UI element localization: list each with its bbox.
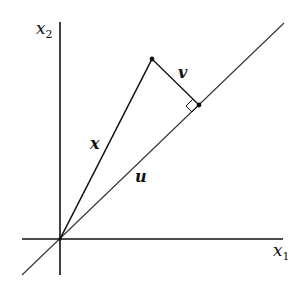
- vector-u-label: u: [135, 167, 147, 186]
- projection-point: [197, 103, 202, 108]
- projection-diagram: x2 x1 x u v: [0, 0, 308, 289]
- x2-axis-label: x2: [36, 18, 53, 41]
- x1-axis-label: x1: [273, 240, 290, 263]
- v-vector: [152, 59, 199, 105]
- x-vector: [60, 59, 152, 239]
- x-tip-point: [150, 57, 155, 62]
- diagram-canvas: x2 x1 x u v: [0, 0, 308, 289]
- vector-v-label: v: [178, 63, 188, 82]
- origin-point: [58, 237, 62, 241]
- vector-x-label: x: [89, 134, 100, 153]
